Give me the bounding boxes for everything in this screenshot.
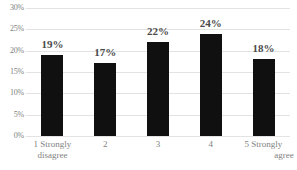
x-axis-label-4: 4 [184,139,237,150]
bar-slot-1: 19% [26,0,79,136]
bar-2[interactable] [94,63,116,136]
y-axis-tick-label-30: 30% [0,4,24,12]
bar-5[interactable] [253,59,275,136]
y-axis-tick-label-25: 25% [0,25,24,33]
x-axis-label-3: 3 [132,139,185,150]
bar-slot-5: 18% [237,0,290,136]
x-axis-label-1-line2: disagree [20,150,85,161]
y-axis-tick-label-20: 20% [0,47,24,55]
bar-slot-3: 22% [132,0,185,136]
x-axis-label-5-line2: agree [231,150,296,161]
x-axis-labels: 1 Strongly disagree 2 3 4 5 Strongly agr… [26,139,290,170]
bar-value-label-4: 24% [200,18,222,29]
bar-1[interactable] [41,55,63,136]
bar-value-label-5: 18% [253,43,275,54]
bar-chart: 30% 25% 20% 15% 10% 5% 0% 19% 17% 22% 24… [0,0,297,170]
y-axis-tick-label-15: 15% [0,68,24,76]
y-axis-tick-label-10: 10% [0,89,24,97]
x-axis-label-1: 1 Strongly disagree [20,139,85,161]
y-axis-tick-label-5: 5% [0,111,24,119]
x-axis-label-5: 5 Strongly agree [231,139,296,161]
bar-4[interactable] [200,34,222,136]
bar-slot-4: 24% [184,0,237,136]
bar-value-label-3: 22% [147,26,169,37]
bar-3[interactable] [147,42,169,136]
x-axis-label-4-line1: 4 [184,139,237,150]
x-axis-label-2-line1: 2 [79,139,132,150]
bar-value-label-2: 17% [94,47,116,58]
gridline-0-baseline [26,136,290,137]
bar-value-label-1: 19% [41,39,63,50]
bars-layer: 19% 17% 22% 24% 18% [26,0,290,136]
x-axis-label-3-line1: 3 [132,139,185,150]
x-axis-label-5-line1: 5 Strongly [231,139,296,150]
x-axis-label-2: 2 [79,139,132,150]
x-axis-label-1-line1: 1 Strongly [20,139,85,150]
bar-slot-2: 17% [79,0,132,136]
